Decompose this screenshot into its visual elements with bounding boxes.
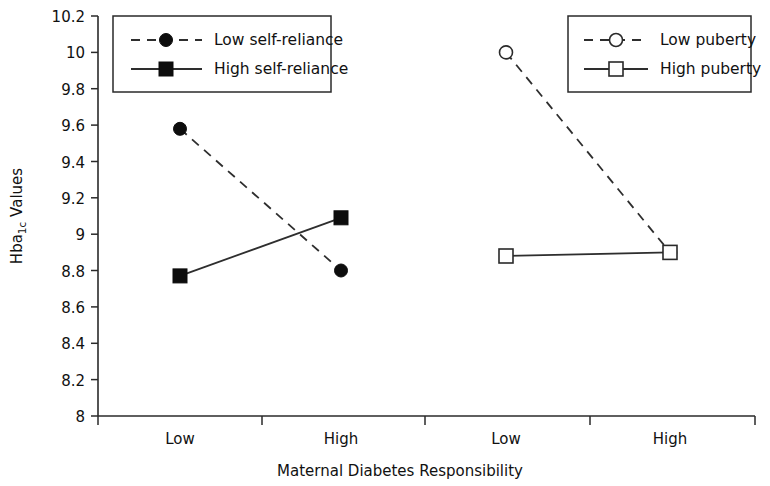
y-tick-label: 8.2 xyxy=(61,372,85,390)
y-tick-label: 8.6 xyxy=(61,299,85,317)
data-point-low-self-reliance-low xyxy=(174,122,187,135)
legend-label-low-self-reliance: Low self-reliance xyxy=(214,31,343,49)
y-axis-title-subscript: 1c xyxy=(16,221,28,234)
legend-self-reliance-box xyxy=(113,16,331,92)
y-tick-label: 9 xyxy=(75,226,85,244)
y-tick-label: 9.4 xyxy=(61,154,85,172)
y-tick-label: 8 xyxy=(75,408,85,426)
legend-self-reliance[interactable]: Low self-reliance High self-reliance xyxy=(113,16,348,92)
y-axis-title-tail: Values xyxy=(8,168,26,222)
data-point-high-puberty-high xyxy=(663,245,677,259)
legend-filled-square-icon xyxy=(159,62,173,76)
legend-label-low-puberty: Low puberty xyxy=(660,31,756,49)
legend-filled-circle-icon xyxy=(160,34,173,47)
y-axis-title: Hba1c Values xyxy=(8,168,28,264)
y-axis-tick-labels: 10.2 10 9.8 9.6 9.4 9.2 9 8.8 8.6 8.4 8.… xyxy=(52,8,85,426)
data-point-high-puberty-low xyxy=(499,249,513,263)
panel-self-reliance-data xyxy=(173,122,348,283)
svg-text:Hba1c Values: Hba1c Values xyxy=(8,168,28,264)
y-tick-label: 10 xyxy=(66,44,85,62)
data-point-low-puberty-low xyxy=(500,46,513,59)
legend-puberty-box xyxy=(568,16,751,92)
x-tick-label-low-2: Low xyxy=(491,430,521,448)
legend-entry-high-self-reliance[interactable]: High self-reliance xyxy=(131,60,348,78)
x-tick-label-high-1: High xyxy=(324,430,358,448)
data-point-high-self-reliance-high xyxy=(334,211,348,225)
legend-label-high-puberty: High puberty xyxy=(660,60,761,78)
x-tick-label-low-1: Low xyxy=(165,430,195,448)
x-tick-label-high-2: High xyxy=(653,430,687,448)
y-tick-label: 8.4 xyxy=(61,335,85,353)
legend-open-circle-icon xyxy=(610,34,623,47)
y-axis: 10.2 10 9.8 9.6 9.4 9.2 9 8.8 8.6 8.4 8.… xyxy=(8,8,98,426)
y-tick-label: 9.2 xyxy=(61,190,85,208)
y-tick-label: 9.8 xyxy=(61,81,85,99)
y-tick-label: 9.6 xyxy=(61,117,85,135)
legend-open-square-icon xyxy=(609,62,623,76)
series-line-high-puberty xyxy=(506,252,670,256)
x-axis-title: Maternal Diabetes Responsibility xyxy=(277,462,523,480)
x-axis-ticks xyxy=(98,416,755,425)
data-point-high-self-reliance-low xyxy=(173,269,187,283)
interaction-plot: 10.2 10 9.8 9.6 9.4 9.2 9 8.8 8.6 8.4 8.… xyxy=(0,0,770,486)
legend-label-high-self-reliance: High self-reliance xyxy=(214,60,348,78)
series-line-low-self-reliance xyxy=(180,129,341,271)
y-axis-ticks xyxy=(91,16,98,416)
x-axis-tick-labels: Low High Low High xyxy=(165,430,687,448)
series-line-high-self-reliance xyxy=(180,218,341,276)
legend-entry-high-puberty[interactable]: High puberty xyxy=(584,60,761,78)
y-tick-label: 10.2 xyxy=(52,8,85,26)
y-tick-label: 8.8 xyxy=(61,263,85,281)
y-axis-title-base: Hba xyxy=(8,234,26,264)
data-point-low-self-reliance-high xyxy=(335,264,348,277)
legend-puberty[interactable]: Low puberty High puberty xyxy=(568,16,761,92)
x-axis: Low High Low High Maternal Diabetes Resp… xyxy=(98,416,755,480)
chart-figure: 10.2 10 9.8 9.6 9.4 9.2 9 8.8 8.6 8.4 8.… xyxy=(0,0,770,486)
